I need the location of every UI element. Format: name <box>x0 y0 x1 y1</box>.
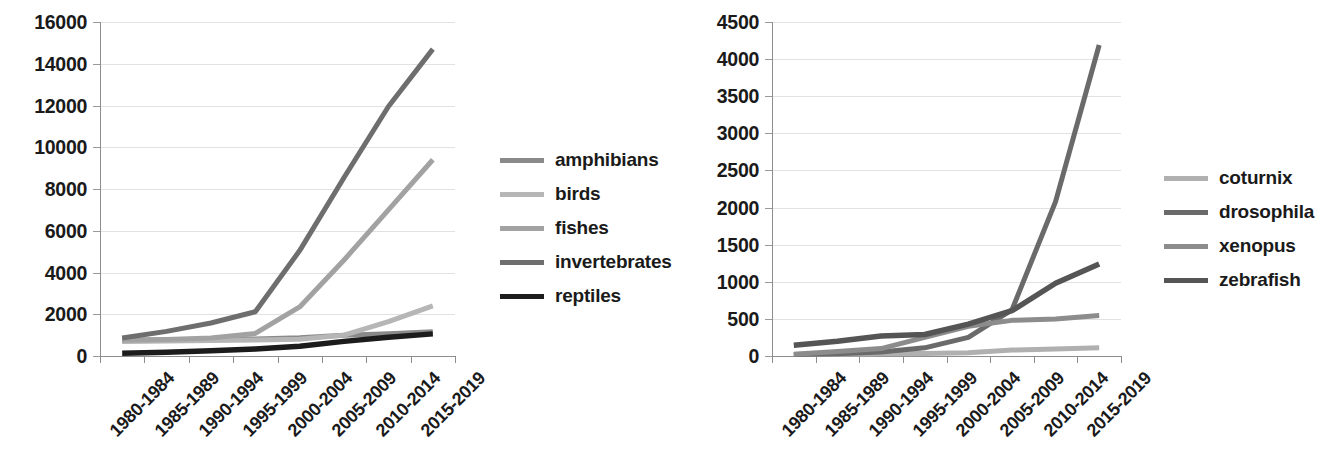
left-chart-panel: 0200040006000800010000120001400016000198… <box>0 0 664 454</box>
legend-item-birds[interactable]: birds <box>500 177 672 211</box>
right-chart-legend: coturnixdrosophilaxenopuszebrafish <box>1164 161 1314 297</box>
legend-item-invertebrates[interactable]: invertebrates <box>500 245 672 279</box>
legend-line-swatch-icon <box>500 260 544 265</box>
legend-line-swatch-icon <box>500 226 544 231</box>
legend-line-swatch-icon <box>1164 176 1208 181</box>
legend-label: drosophila <box>1219 201 1314 223</box>
right-chart-panel: 0500100015002000250030003500400045001980… <box>664 0 1326 454</box>
legend-item-coturnix[interactable]: coturnix <box>1164 161 1314 195</box>
legend-item-reptiles[interactable]: reptiles <box>500 279 672 313</box>
legend-line-swatch-icon <box>500 158 544 163</box>
legend-label: fishes <box>555 217 609 239</box>
legend-line-swatch-icon <box>1164 210 1208 215</box>
legend-line-swatch-icon <box>1164 244 1208 249</box>
legend-label: birds <box>555 183 600 205</box>
legend-item-amphibians[interactable]: amphibians <box>500 143 672 177</box>
legend-item-drosophila[interactable]: drosophila <box>1164 195 1314 229</box>
legend-label: amphibians <box>555 149 659 171</box>
legend-item-fishes[interactable]: fishes <box>500 211 672 245</box>
legend-label: reptiles <box>555 285 621 307</box>
legend-item-xenopus[interactable]: xenopus <box>1164 229 1314 263</box>
series-line-fishes <box>122 160 433 340</box>
legend-line-swatch-icon <box>1164 278 1208 283</box>
legend-label: invertebrates <box>555 251 672 273</box>
legend-line-swatch-icon <box>500 294 544 299</box>
legend-line-swatch-icon <box>500 192 544 197</box>
left-chart-legend: amphibiansbirdsfishesinvertebratesreptil… <box>500 143 672 313</box>
two-panel-line-chart-figure: 0200040006000800010000120001400016000198… <box>0 0 1326 454</box>
legend-label: xenopus <box>1219 235 1296 257</box>
series-line-invertebrates <box>122 49 433 338</box>
legend-label: coturnix <box>1219 167 1292 189</box>
series-line-drosophila <box>794 45 1099 355</box>
legend-label: zebrafish <box>1219 269 1301 291</box>
legend-item-zebrafish[interactable]: zebrafish <box>1164 263 1314 297</box>
